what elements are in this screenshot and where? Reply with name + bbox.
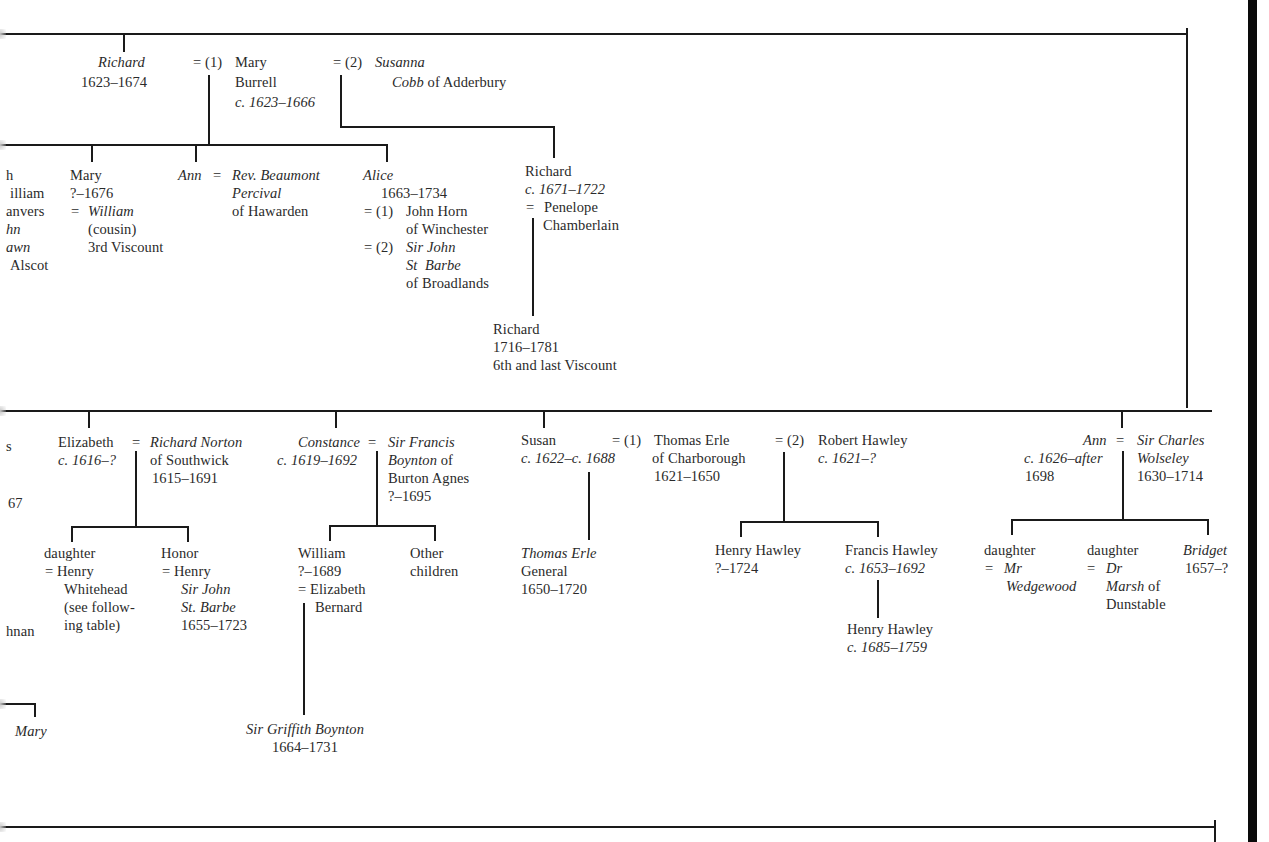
ann-name: Ann bbox=[178, 168, 202, 184]
henry-hawley2-dates: c. 1685–1759 bbox=[847, 640, 927, 656]
william-dates: ?–1689 bbox=[298, 564, 341, 580]
constance-spouse-surname: Boynton of bbox=[388, 453, 453, 469]
ann2-dates-line2: 1698 bbox=[1025, 469, 1054, 485]
honor-spouse-title: Sir John bbox=[181, 582, 231, 598]
alice-dates: 1663–1734 bbox=[381, 186, 447, 202]
francis-descent-line bbox=[877, 580, 879, 618]
alice-m2-surname: St Barbe bbox=[406, 258, 461, 274]
wolseley-child1-drop bbox=[1011, 519, 1013, 535]
bridget-name: Bridget bbox=[1183, 543, 1227, 559]
elizabeth-child1-line3: Whitehead bbox=[64, 582, 128, 598]
wolseley-child1-spouse: Mr bbox=[1004, 561, 1022, 577]
alice-drop-line bbox=[386, 144, 388, 162]
family-tree-diagram: Richard 1623–1674 = (1) Mary Burrell c. … bbox=[0, 0, 1269, 842]
cutoff-text: Alscot bbox=[10, 258, 48, 274]
honor-spouse-dates: 1655–1723 bbox=[181, 618, 247, 634]
ann2-dates-line1: c. 1626–after bbox=[1024, 451, 1103, 467]
wolseley-surname: Wolseley bbox=[1137, 451, 1189, 467]
bottom-right-drop bbox=[1214, 820, 1216, 842]
griffith-dates: 1664–1731 bbox=[230, 740, 380, 756]
elizabeth-child2-drop bbox=[187, 526, 189, 542]
wolseley-child2-line1: daughter bbox=[1087, 543, 1139, 559]
bridget-dates: 1657–? bbox=[1185, 561, 1228, 577]
constance-spouse-place: Burton Agnes bbox=[388, 471, 469, 487]
cutoff-text: hn bbox=[6, 222, 21, 238]
mary-spouse: William bbox=[88, 204, 134, 220]
wolseley-child1-line1: daughter bbox=[984, 543, 1036, 559]
hawley-child2-drop bbox=[877, 521, 879, 537]
ann2-drop-line bbox=[1121, 410, 1123, 428]
mary-spouse-note: (cousin) bbox=[88, 222, 136, 238]
richard3-title: 6th and last Viscount bbox=[493, 358, 617, 374]
susan-m2-spouse: Robert Hawley bbox=[818, 433, 907, 449]
cutoff-text: s bbox=[6, 439, 12, 455]
susan-m1-spouse: Thomas Erle bbox=[654, 433, 730, 449]
ann2-marker: = bbox=[1116, 433, 1124, 449]
william-spouse: = Elizabeth bbox=[298, 582, 366, 598]
mary-spouse-marker: = bbox=[71, 204, 79, 220]
mary-burrell-surname: Burrell bbox=[235, 75, 277, 91]
cutoff-text: anvers bbox=[6, 204, 44, 220]
richard2-drop-line bbox=[553, 126, 555, 158]
henry-hawley2-name: Henry Hawley bbox=[847, 622, 933, 638]
susan-dates: c. 1622–c. 1688 bbox=[521, 451, 615, 467]
top-generation-line bbox=[0, 33, 1188, 35]
mary-drop-line bbox=[91, 144, 93, 162]
ann-spouse-surname: Percival bbox=[232, 186, 281, 202]
richard3-name: Richard bbox=[493, 322, 540, 338]
susan-m2-marker: = (2) bbox=[775, 433, 804, 449]
ann2-name: Ann bbox=[1083, 433, 1107, 449]
mary-spouse-title: 3rd Viscount bbox=[88, 240, 163, 256]
elizabeth-marker: = bbox=[132, 435, 140, 451]
ann-spouse-place: of Hawarden bbox=[232, 204, 308, 220]
other-children-line2: children bbox=[410, 564, 458, 580]
honor-spouse: = Henry bbox=[162, 564, 211, 580]
constance-dates: c. 1619–1692 bbox=[277, 453, 357, 469]
henry-hawley-name: Henry Hawley bbox=[715, 543, 801, 559]
elizabeth-spouse-place: of Southwick bbox=[150, 453, 229, 469]
page-edge-bar bbox=[1248, 0, 1257, 842]
richard2-spouse-marker: = bbox=[526, 200, 534, 216]
constance-drop-line bbox=[335, 410, 337, 428]
richard2-dates: c. 1671–1722 bbox=[525, 182, 605, 198]
elizabeth-drop-line bbox=[88, 410, 90, 428]
elizabeth-spouse: Richard Norton bbox=[150, 435, 242, 451]
elizabeth-child1-line5: ing table) bbox=[64, 618, 120, 634]
richard-drop-line bbox=[123, 34, 125, 52]
susanna-surname: Cobb of Adderbury bbox=[392, 75, 506, 91]
cutoff-text: h bbox=[6, 168, 13, 184]
marriage1-drop-line bbox=[208, 75, 210, 145]
wolseley-child2-surname-italic: Marsh bbox=[1106, 578, 1144, 594]
mary-name: Mary bbox=[70, 168, 102, 184]
constance-child2-drop bbox=[434, 525, 436, 541]
susan-m2-descent-line bbox=[783, 452, 785, 522]
marriage2-drop-line bbox=[340, 75, 342, 128]
page-edge-shadow bbox=[0, 140, 6, 150]
susan-m2-dates: c. 1621–? bbox=[818, 451, 876, 467]
constance-marker: = bbox=[368, 435, 376, 451]
ann2-marriage-line bbox=[1122, 451, 1124, 521]
susan-name: Susan bbox=[521, 433, 556, 449]
alice-m1-place: of Winchester bbox=[406, 222, 488, 238]
richard-dates: 1623–1674 bbox=[81, 75, 147, 91]
thomas-erle-name: Thomas Erle bbox=[521, 546, 597, 562]
wolseley-child3-drop bbox=[1207, 519, 1209, 535]
cutoff-text: 67 bbox=[8, 496, 23, 512]
alice-m2-marker: = (2) bbox=[364, 240, 393, 256]
thomas-erle-title: General bbox=[521, 564, 568, 580]
constance-marriage-line bbox=[376, 451, 378, 527]
bottom-generation-line bbox=[0, 826, 1216, 828]
constance-spouse-surname-italic: Boynton bbox=[388, 452, 437, 468]
susanna-name: Susanna bbox=[375, 55, 425, 71]
richard2-descent-line bbox=[532, 218, 534, 316]
richard2-spouse: Penelope bbox=[544, 200, 598, 216]
marriage1-marker: = (1) bbox=[193, 55, 222, 71]
elizabeth-child1-line1: daughter bbox=[44, 546, 96, 562]
susanna-place: of Adderbury bbox=[424, 74, 507, 90]
richard3-dates: 1716–1781 bbox=[493, 340, 559, 356]
william-name: William bbox=[298, 546, 346, 562]
susan-m1-descent-line bbox=[588, 472, 590, 540]
elizabeth-dates: c. 1616–? bbox=[58, 453, 116, 469]
wolseley-child2-of: of bbox=[1144, 578, 1160, 594]
alice-name: Alice bbox=[363, 168, 393, 184]
